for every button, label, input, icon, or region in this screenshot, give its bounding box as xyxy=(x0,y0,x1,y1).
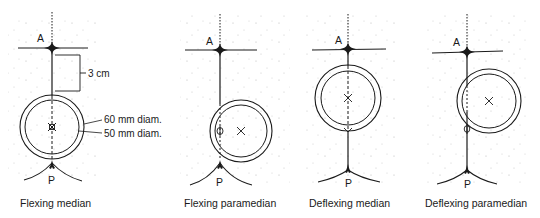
label-p: P xyxy=(48,174,55,186)
panel-flexing-median: A 3 cm 60 mm diam. 50 mm diam. P Flexing… xyxy=(8,12,162,209)
caption-deflexing-median: Deflexing median xyxy=(309,197,390,209)
label-p: P xyxy=(464,178,471,190)
label-p: P xyxy=(216,176,223,188)
inner-diameter-label: 50 mm diam. xyxy=(104,128,162,139)
outer-diameter-label: 60 mm diam. xyxy=(104,114,162,125)
label-a: A xyxy=(37,32,44,44)
stipple-background xyxy=(425,15,530,185)
caption-flexing-paramedian: Flexing paramedian xyxy=(184,197,276,209)
caption-flexing-median: Flexing median xyxy=(20,197,91,209)
vacuum-cup-placement-diagram: A 3 cm 60 mm diam. 50 mm diam. P Flexing… xyxy=(0,0,540,218)
label-a: A xyxy=(335,34,342,46)
flexion-point-icon xyxy=(48,123,56,131)
distance-label: 3 cm xyxy=(88,68,110,79)
caption-deflexing-paramedian: Deflexing paramedian xyxy=(425,197,527,209)
label-a: A xyxy=(206,35,213,47)
panel-deflexing-paramedian: A P Deflexing paramedian xyxy=(425,14,530,209)
label-p: P xyxy=(345,177,352,189)
panel-deflexing-median: A P Deflexing median xyxy=(305,14,395,209)
panel-flexing-paramedian: A P Flexing paramedian xyxy=(180,14,290,209)
label-a: A xyxy=(453,36,460,48)
stipple-background xyxy=(180,15,290,185)
